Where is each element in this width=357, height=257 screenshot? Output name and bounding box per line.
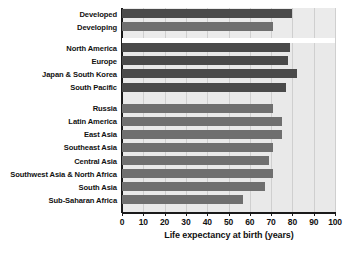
x-tick-70 <box>271 212 272 216</box>
x-tick-100 <box>335 212 336 216</box>
x-tick-label-60: 60 <box>245 217 254 227</box>
bar-label: South Pacific <box>70 83 117 92</box>
x-tick-label-30: 30 <box>181 217 190 227</box>
bar-row[interactable]: Russia <box>0 103 357 114</box>
bar-label: East Asia <box>84 130 117 139</box>
x-tick-label-80: 80 <box>288 217 297 227</box>
bar-row[interactable]: Southwest Asia & North Africa <box>0 168 357 179</box>
bar-label: South Asia <box>79 182 117 191</box>
x-tick-20 <box>165 212 166 216</box>
group-separator <box>122 38 335 43</box>
x-tick-label-50: 50 <box>224 217 233 227</box>
bar-row[interactable]: Developing <box>0 21 357 32</box>
bar[interactable] <box>122 169 273 178</box>
bar-row[interactable]: Europe <box>0 55 357 66</box>
x-tick-label-90: 90 <box>309 217 318 227</box>
bar-label: Latin America <box>68 117 117 126</box>
x-tick-label-40: 40 <box>203 217 212 227</box>
bar[interactable] <box>122 143 273 152</box>
x-axis-title: Life expectancy at birth (years) <box>122 230 336 240</box>
x-tick-label-100: 100 <box>328 217 342 227</box>
x-tick-80 <box>292 212 293 216</box>
x-tick-60 <box>250 212 251 216</box>
bar[interactable] <box>122 117 282 126</box>
bar-row[interactable]: Japan & South Korea <box>0 68 357 79</box>
bar-label: Russia <box>93 104 117 113</box>
bar[interactable] <box>122 195 243 204</box>
x-tick-label-0: 0 <box>120 217 125 227</box>
x-tick-label-10: 10 <box>139 217 148 227</box>
bar-row[interactable]: South Pacific <box>0 82 357 93</box>
x-tick-label-70: 70 <box>267 217 276 227</box>
bar-row[interactable]: Sub-Saharan Africa <box>0 194 357 205</box>
bar-label: Japan & South Korea <box>42 69 117 78</box>
bar-label: Southeast Asia <box>64 143 117 152</box>
life-expectancy-bar-chart: 0102030405060708090100 DevelopedDevelopi… <box>0 0 357 257</box>
x-tick-90 <box>314 212 315 216</box>
bar[interactable] <box>122 56 288 65</box>
bar-row[interactable]: South Asia <box>0 181 357 192</box>
bar-row[interactable]: Southeast Asia <box>0 142 357 153</box>
bar[interactable] <box>122 22 273 31</box>
x-tick-10 <box>143 212 144 216</box>
bar-row[interactable]: Central Asia <box>0 155 357 166</box>
bar-label: Developing <box>77 22 117 31</box>
bar[interactable] <box>122 182 265 191</box>
bar[interactable] <box>122 83 286 92</box>
bar[interactable] <box>122 130 282 139</box>
bar-row[interactable]: East Asia <box>0 129 357 140</box>
bar-label: Sub-Saharan Africa <box>49 195 117 204</box>
bar-row[interactable]: North America <box>0 42 357 53</box>
x-tick-50 <box>229 212 230 216</box>
x-tick-30 <box>186 212 187 216</box>
x-tick-label-20: 20 <box>160 217 169 227</box>
bar[interactable] <box>122 43 290 52</box>
bar[interactable] <box>122 156 269 165</box>
bar-label: Developed <box>79 9 117 18</box>
bar[interactable] <box>122 69 297 78</box>
bar-label: Europe <box>91 56 117 65</box>
bar-label: Central Asia <box>74 156 117 165</box>
bar[interactable] <box>122 9 292 18</box>
bar-row[interactable]: Latin America <box>0 116 357 127</box>
x-tick-0 <box>122 212 123 216</box>
x-tick-40 <box>207 212 208 216</box>
bar-label: North America <box>66 43 117 52</box>
bar-label: Southwest Asia & North Africa <box>10 169 117 178</box>
bar-row[interactable]: Developed <box>0 8 357 19</box>
bar[interactable] <box>122 104 273 113</box>
